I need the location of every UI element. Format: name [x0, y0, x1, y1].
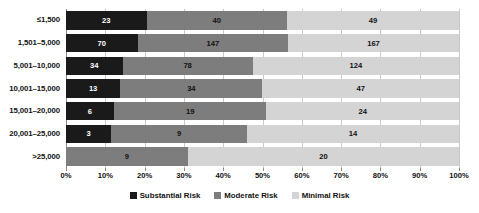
bar-segment: 147	[138, 34, 289, 53]
bar-segment: 24	[266, 102, 459, 121]
category-label: 1,501–5,000	[0, 38, 60, 47]
bar-segment: 34	[120, 79, 262, 98]
bar-row: 3478124	[66, 57, 459, 76]
bar-segment: 47	[262, 79, 459, 98]
x-axis-label: 70%	[333, 171, 348, 180]
bar-segment: 20	[188, 147, 459, 166]
bar-row: 70147167	[66, 34, 459, 53]
bar-segment: 70	[66, 34, 138, 53]
plot-area: 234049701471673478124133447619243914920	[66, 9, 459, 168]
x-axis-label: 20%	[137, 171, 152, 180]
stacked-bar-chart: ≤1,5001,501–5,0005,001–10,00010,001–15,0…	[0, 0, 479, 213]
bar-row: 133447	[66, 79, 459, 98]
gridline-100	[459, 9, 460, 168]
category-label: 20,001–25,000	[0, 129, 60, 138]
bar-segment: 167	[288, 34, 459, 53]
bar-segment: 9	[66, 147, 188, 166]
x-axis-label: 10%	[98, 171, 113, 180]
bar-segment: 23	[66, 11, 147, 30]
bar-segment: 13	[66, 79, 120, 98]
bar-segment: 40	[147, 11, 287, 30]
bar-row: 61924	[66, 102, 459, 121]
legend-item: Moderate Risk	[214, 191, 277, 200]
category-label: 15,001–20,000	[0, 106, 60, 115]
legend-item: Substantial Risk	[130, 191, 201, 200]
legend-label: Substantial Risk	[140, 191, 201, 200]
category-label: 10,001–15,000	[0, 84, 60, 93]
category-label: 5,001–10,000	[0, 61, 60, 70]
bar-row: 3914	[66, 125, 459, 144]
bar-segment: 14	[247, 125, 459, 144]
bar-segment: 34	[66, 57, 123, 76]
x-axis: 0%10%20%30%40%50%60%70%80%90%100%	[66, 168, 459, 184]
legend-item: Minimal Risk	[292, 191, 350, 200]
legend-swatch-icon	[292, 192, 299, 199]
bar-segment: 124	[253, 57, 459, 76]
bar-segment: 6	[66, 102, 114, 121]
bar-segment: 78	[123, 57, 253, 76]
x-axis-label: 0%	[61, 171, 72, 180]
x-axis-label: 50%	[255, 171, 270, 180]
bar-row: 234049	[66, 11, 459, 30]
legend-label: Minimal Risk	[302, 191, 350, 200]
x-axis-label: 90%	[412, 171, 427, 180]
category-label: ≤1,500	[0, 15, 60, 24]
category-label: >25,000	[0, 152, 60, 161]
legend-label: Moderate Risk	[224, 191, 277, 200]
bar-segment: 49	[287, 11, 459, 30]
x-axis-label: 60%	[294, 171, 309, 180]
x-axis-label: 40%	[216, 171, 231, 180]
bar-segment: 9	[111, 125, 247, 144]
bar-segment: 3	[66, 125, 111, 144]
chart-legend: Substantial RiskModerate RiskMinimal Ris…	[0, 191, 479, 200]
x-axis-label: 100%	[449, 171, 468, 180]
x-axis-label: 30%	[176, 171, 191, 180]
bar-row: 920	[66, 147, 459, 166]
bar-segment: 19	[114, 102, 266, 121]
legend-swatch-icon	[130, 192, 137, 199]
x-axis-label: 80%	[373, 171, 388, 180]
legend-swatch-icon	[214, 192, 221, 199]
